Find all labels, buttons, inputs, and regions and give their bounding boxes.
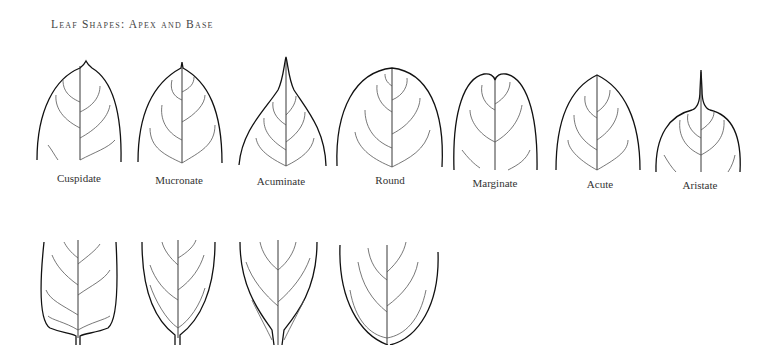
leaf-acuminate-illustration — [239, 57, 326, 166]
leaf-acute-illustration — [556, 75, 640, 170]
label-acute: Acute — [550, 178, 650, 190]
leaf-round-illustration — [337, 68, 442, 167]
leaf-mucronate-illustration — [138, 62, 222, 163]
label-marginate: Marginate — [445, 177, 545, 189]
label-cuspidate: Cuspidate — [29, 172, 129, 184]
leaf-base-rounded-illustration — [340, 242, 438, 345]
label-acuminate: Acuminate — [231, 175, 331, 187]
leaf-aristate-illustration — [656, 70, 740, 172]
leaf-base-cuneate-illustration — [142, 240, 215, 345]
leaf-cuspidate-illustration — [37, 61, 121, 162]
label-mucronate: Mucronate — [129, 174, 229, 186]
leaf-base-truncate-illustration — [41, 240, 117, 345]
leaf-marginate-illustration — [454, 74, 537, 170]
label-round: Round — [340, 174, 440, 186]
label-aristate: Aristate — [650, 179, 750, 191]
leaf-base-attenuate-illustration — [240, 240, 317, 345]
